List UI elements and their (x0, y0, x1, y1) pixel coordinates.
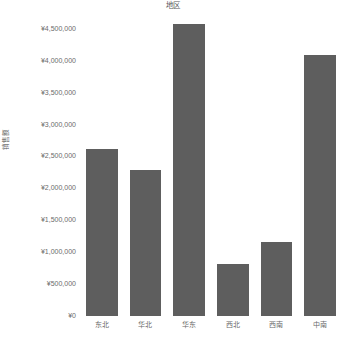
y-axis-tick-label: ¥0 (10, 312, 76, 320)
x-axis-tick-label: 西北 (211, 320, 255, 329)
y-axis-tick-label: ¥2,500,000 (10, 152, 76, 160)
y-axis-tick-label: ¥4,000,000 (10, 57, 76, 65)
x-axis-tick-labels: 东北华北华东西北西南中南 (80, 320, 342, 340)
bar-华北[interactable] (130, 170, 161, 316)
y-axis-tick-labels: ¥0¥500,000¥1,000,000¥1,500,000¥2,000,000… (8, 0, 76, 350)
bar-西南[interactable] (261, 242, 292, 316)
x-axis-tick-label: 中南 (298, 320, 342, 329)
bar-中南[interactable] (304, 55, 335, 316)
bar-chart: 地区 销售额 ¥0¥500,000¥1,000,000¥1,500,000¥2,… (0, 0, 346, 350)
x-axis-line (80, 316, 342, 317)
y-axis-tick-label: ¥4,500,000 (10, 25, 76, 33)
y-axis-tick-label: ¥500,000 (10, 280, 76, 288)
y-axis-tick-label: ¥1,500,000 (10, 216, 76, 224)
x-axis-tick-label: 华北 (124, 320, 168, 329)
y-axis-tick-label: ¥2,000,000 (10, 184, 76, 192)
bar-华东[interactable] (173, 24, 204, 316)
x-axis-tick-label: 华东 (167, 320, 211, 329)
bar-西北[interactable] (217, 264, 248, 316)
y-axis-tick-label: ¥3,500,000 (10, 89, 76, 97)
plot-area (80, 16, 342, 316)
y-axis-tick-label: ¥1,000,000 (10, 248, 76, 256)
y-axis-tick-label: ¥3,000,000 (10, 121, 76, 129)
x-axis-tick-label: 西南 (255, 320, 299, 329)
x-axis-tick-label: 东北 (80, 320, 124, 329)
bar-东北[interactable] (86, 149, 117, 316)
